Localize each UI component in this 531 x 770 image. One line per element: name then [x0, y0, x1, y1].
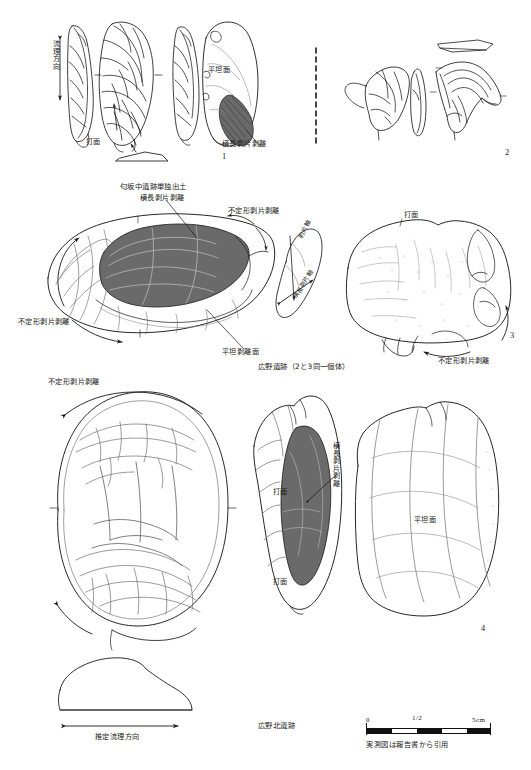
label-transverse-flake-removal-top: 横長剥片剥離: [222, 140, 266, 148]
artifact-4-broad-face: [355, 402, 498, 616]
caption-kousakanaka-site: 匂坂中遺跡単独出土: [120, 183, 187, 192]
scale-bar-segments: [366, 728, 491, 734]
scale-bar: [366, 728, 491, 737]
artifact-2-large-core: [48, 200, 275, 348]
label-striking-platform-mid: 打面: [404, 211, 419, 219]
figure-number-3: 3: [510, 331, 514, 341]
label-flow-direction: 流理方向: [52, 40, 60, 70]
label-estimated-flow-direction: 推定流理方向: [95, 733, 139, 741]
artifact-3-cobble: [346, 219, 510, 357]
artifact-1-profile-left: [68, 26, 94, 148]
artifact-1-main-face: [99, 22, 153, 152]
artifact-4-shaded-profile: [254, 396, 342, 614]
label-flat-surface-bottom: 平坦面: [414, 516, 436, 524]
illustration-plate: 流理方向 打面 平坦面 横長剥片剥離 1 2 匂坂中遺跡単独出土 横長剥片剥離 …: [0, 0, 531, 770]
scale-tick-5cm: 5cm: [472, 716, 485, 724]
label-flat-surface-top: 平坦面: [208, 66, 230, 74]
scale-tick-half: 1/2: [412, 714, 422, 722]
scale-bar-endcap-right: [490, 723, 491, 735]
caption-hirono-kita-site: 広野北遺跡: [258, 722, 295, 731]
scale-tick-0: 0: [366, 716, 370, 724]
artifact-2-group: [345, 40, 506, 140]
scale-source-note: 実測図は報告書から引用: [366, 741, 449, 749]
artifact-1-cross-section: [116, 152, 168, 161]
caption-hirono-site: 広野遺跡（2と3同一個体）: [258, 363, 350, 372]
label-irregular-flake-removal-mid-bottom: 不定形剥片剥離: [438, 357, 490, 365]
artifact-4-fragment-arc: [111, 628, 197, 650]
artifact-4-oval-face: [50, 392, 236, 634]
label-flat-removal-surface: 平坦剥離面: [222, 348, 259, 356]
label-irregular-flake-removal-mid-left: 不定形剥片剥離: [18, 318, 70, 326]
artifact-4-cross-section: [59, 658, 193, 726]
label-striking-platform-bottom-upper: 打面: [273, 488, 288, 496]
label-transverse-flake-removal-bottom: 横長剥片剥離: [332, 442, 340, 488]
scale-bar-endcap-left: [366, 723, 367, 735]
label-transverse-flake-removal-mid: 横長剥片剥離: [140, 194, 184, 202]
label-striking-platform-top: 打面: [86, 138, 101, 146]
artifact-1-shaded-face: [203, 22, 258, 146]
label-irregular-flake-removal-bottom-top: 不定形剥片剥離: [48, 378, 100, 386]
label-irregular-flake-removal-mid-right: 不定形剥片剥離: [228, 207, 280, 215]
label-striking-platform-bottom-lower: 打面: [273, 578, 288, 586]
figure-number-4: 4: [481, 624, 485, 634]
artifact-2-side-profile: [276, 229, 322, 318]
figure-number-2: 2: [505, 148, 509, 158]
figure-number-1: 1: [222, 152, 226, 162]
artifact-1-profile-right: [173, 27, 199, 145]
